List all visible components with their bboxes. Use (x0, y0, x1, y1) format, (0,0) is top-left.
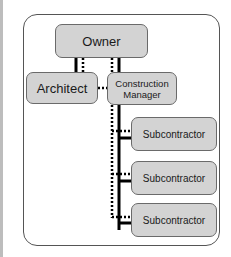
architect-node: Architect (26, 72, 98, 104)
architect-label: Architect (37, 81, 88, 96)
construction-manager-node: Construction Manager (107, 72, 177, 105)
owner-node: Owner (55, 24, 148, 58)
subcontractor-label: Subcontractor (143, 173, 205, 184)
subcontractor-label: Subcontractor (143, 215, 205, 226)
subcontractor-node-2: Subcontractor (131, 161, 217, 195)
subcontractor-node-3: Subcontractor (131, 203, 217, 237)
cm-label-line2: Manager (123, 89, 161, 100)
owner-label: Owner (82, 34, 120, 49)
cm-label-line1: Construction (115, 78, 168, 89)
subcontractor-label: Subcontractor (143, 129, 205, 140)
subcontractor-node-1: Subcontractor (131, 117, 217, 151)
